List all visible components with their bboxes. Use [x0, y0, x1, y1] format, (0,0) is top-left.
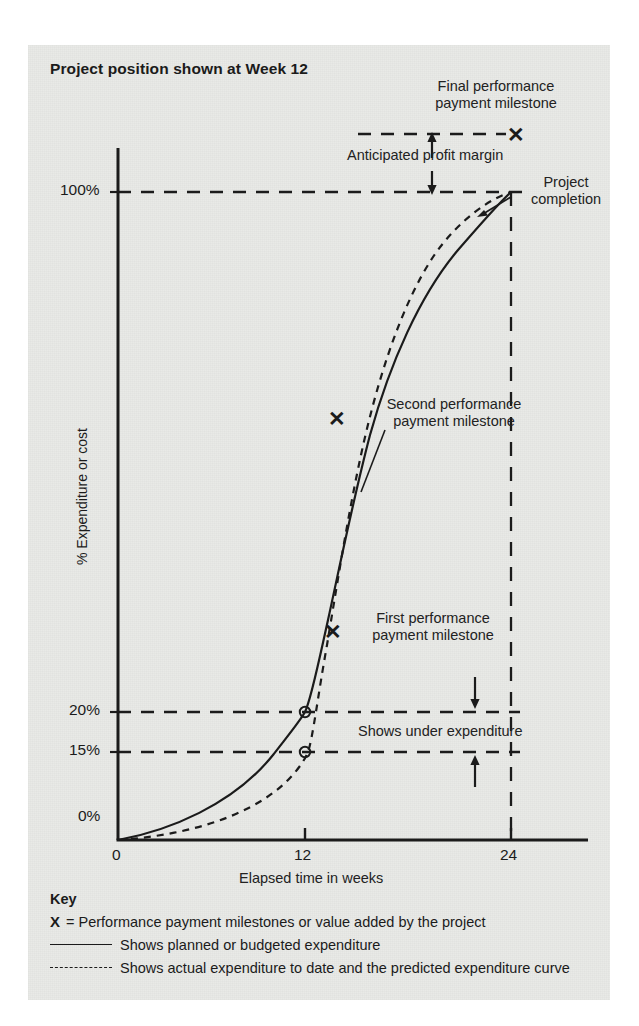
second-milestone-label-line1: Second performance: [366, 396, 542, 413]
key-row-planned: Shows planned or budgeted expenditure: [50, 933, 595, 956]
final-milestone-label-line1: Final performance: [411, 78, 581, 95]
chart-key: Key X = Performance payment milestones o…: [50, 891, 595, 979]
key-x-icon: X: [50, 913, 66, 930]
final-milestone-label-line2: payment milestone: [411, 95, 581, 112]
project-completion-label: Project completion: [520, 174, 610, 208]
y-axis-title: % Expenditure or cost: [74, 428, 90, 565]
project-completion-label-line1: Project: [520, 174, 610, 191]
y-tick-label-20: 20%: [69, 701, 100, 719]
first-milestone-label-line1: First performance: [350, 610, 516, 627]
key-planned-text: Shows planned or budgeted expenditure: [120, 937, 380, 953]
first-performance-milestone-marker: ✕: [324, 620, 342, 643]
under-expenditure-label: Shows under expenditure: [358, 723, 522, 740]
page-bleed-text: [0, 0, 639, 30]
figure-panel: Project position shown at Week 12: [28, 45, 610, 1000]
planned-expenditure-curve: [118, 192, 511, 840]
key-row-actual: Shows actual expenditure to date and the…: [50, 956, 595, 979]
project-completion-leader: [477, 197, 511, 217]
x-tick-label-12: 12: [294, 846, 311, 864]
page-bleed-text-glyphs: [0, 0, 4, 8]
second-performance-milestone-marker: ✕: [328, 407, 346, 430]
under-expenditure-arrow-up-head: [470, 755, 479, 765]
first-milestone-label: First performance payment milestone: [350, 610, 516, 644]
x-tick-label-24: 24: [500, 846, 517, 864]
key-milestone-text: Performance payment milestones or value …: [78, 914, 485, 930]
under-expenditure-arrow-down-head: [470, 699, 479, 709]
dashed-line-icon: [50, 967, 112, 968]
final-performance-milestone-marker: ✕: [507, 123, 525, 146]
second-milestone-label: Second performance payment milestone: [366, 396, 542, 430]
y-tick-label-15: 15%: [69, 741, 100, 759]
reference-lines: [118, 134, 528, 752]
final-milestone-label: Final performance payment milestone: [411, 78, 581, 112]
key-row-milestone: X = Performance payment milestones or va…: [50, 910, 595, 933]
key-title: Key: [50, 891, 595, 907]
x-tick-label-0: 0: [112, 846, 121, 864]
project-completion-label-line2: completion: [520, 191, 610, 208]
first-milestone-label-line2: payment milestone: [350, 627, 516, 644]
key-equals-sign: =: [66, 914, 74, 930]
x-axis-title: Elapsed time in weeks: [239, 870, 383, 887]
profit-margin-arrow-down-head: [427, 185, 436, 195]
milestone-markers: ✕ ✕ ✕: [324, 123, 525, 643]
y-tick-label-100: 100%: [60, 181, 100, 199]
key-actual-text: Shows actual expenditure to date and the…: [120, 960, 570, 976]
project-completion-leader-line: [483, 197, 511, 214]
solid-line-icon: [50, 944, 112, 945]
second-milestone-label-line2: payment milestone: [366, 413, 542, 430]
actual-predicted-expenditure-curve: [118, 192, 511, 840]
anticipated-profit-margin-label: Anticipated profit margin: [347, 147, 503, 164]
y-tick-label-0: 0%: [78, 807, 100, 825]
